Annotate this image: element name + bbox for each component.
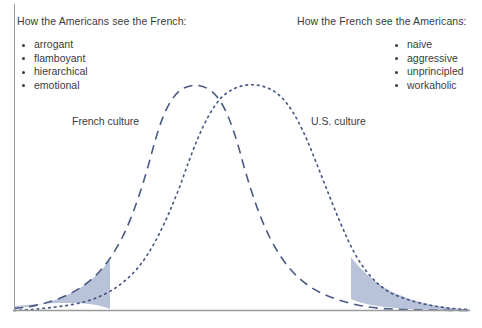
list-item: hierarchical [20, 65, 88, 79]
stereotype-list-american: naive aggressive unprincipled workaholic [393, 38, 464, 92]
heading-americans-see-french: How the Americans see the French: [17, 15, 187, 27]
curve-label-french-culture: French culture [72, 115, 139, 127]
list-item: workaholic [393, 79, 464, 93]
curve-label-us-culture: U.S. culture [311, 115, 366, 127]
list-item: arrogant [20, 38, 88, 52]
list-item: unprincipled [393, 65, 464, 79]
shaded-region-left [14, 256, 112, 310]
list-item: aggressive [393, 52, 464, 66]
heading-french-see-americans: How the French see the Americans: [297, 15, 467, 27]
list-item: emotional [20, 79, 88, 93]
shaded-region-right [351, 257, 470, 311]
list-item: naive [393, 38, 464, 52]
list-item: flamboyant [20, 52, 88, 66]
stereotype-list-french: arrogant flamboyant hierarchical emotion… [20, 38, 88, 92]
culture-curves-figure: How the Americans see the French: How th… [0, 0, 482, 328]
